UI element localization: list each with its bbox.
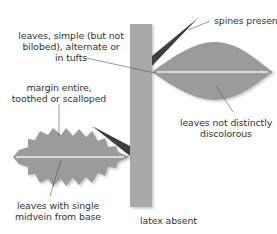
label-margin: margin entire, toothed or scalloped — [3, 82, 115, 104]
label-line: bilobed), alternate or — [6, 41, 136, 52]
label-line: leaves not distinctly — [170, 117, 277, 128]
leader-spines — [188, 21, 210, 30]
label-leaves-simple: leaves, simple (but not bilobed), altern… — [6, 30, 136, 63]
label-line: leaves, simple (but not — [6, 30, 136, 41]
label-latex-absent: latex absent — [140, 215, 197, 226]
label-spines-present: spines present — [214, 15, 277, 26]
label-line: discolorous — [170, 128, 277, 139]
label-line: midvein from base — [0, 211, 116, 222]
upper-leaf — [152, 42, 273, 100]
label-midvein: leaves with single midvein from base — [0, 200, 116, 222]
label-line: leaves with single — [0, 200, 116, 211]
label-line: toothed or scalloped — [3, 93, 115, 104]
label-line: in tufts — [6, 52, 136, 63]
label-discolorous: leaves not distinctly discolorous — [170, 117, 277, 139]
label-line: margin entire, — [3, 82, 115, 93]
